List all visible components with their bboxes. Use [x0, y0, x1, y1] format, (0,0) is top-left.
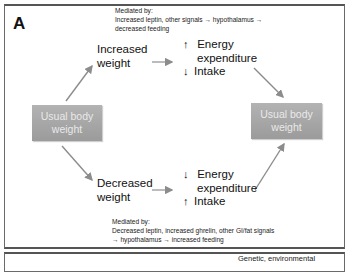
expenditure-label: expenditure	[183, 182, 257, 196]
arrow-usual-to-decreased	[62, 146, 92, 180]
intake-label: Intake	[194, 195, 225, 207]
panel-b-partial-text: Genetic, environmental	[238, 254, 315, 263]
decreased-weight-label: Decreased weight	[97, 177, 153, 204]
top-mediation-line: Increased leptin, other signals → hypoth…	[115, 15, 262, 24]
down-arrow-icon: ↓	[183, 65, 194, 79]
increased-weight-line: Increased	[97, 43, 148, 57]
down-arrow-icon: ↓	[183, 168, 194, 182]
top-mediation-line: decreased feeding	[115, 24, 262, 33]
bottom-mediation-line: → hypothalamus → increased feeding	[112, 235, 274, 244]
bottom-mediation-line: Decreased leptin, increased ghrelin, oth…	[112, 226, 274, 235]
up-arrow-icon: ↑	[183, 195, 194, 209]
box-line: weight	[260, 121, 313, 134]
bottom-mediation-text: Mediated by: Decreased leptin, increased…	[112, 217, 274, 244]
arrow-effects-to-usual-right-lower	[255, 144, 284, 190]
up-arrow-icon: ↑	[183, 38, 194, 52]
lower-effects: ↓ Energy expenditure ↑Intake	[183, 168, 257, 209]
energy-label: Energy	[197, 168, 233, 180]
intake-label: Intake	[194, 65, 225, 77]
box-line: weight	[41, 123, 94, 136]
arrow-usual-to-increased	[66, 66, 92, 101]
box-line: Usual body	[260, 108, 313, 121]
increased-weight-label: Increased weight	[97, 43, 148, 70]
energy-label: Energy	[197, 38, 233, 50]
upper-effects: ↑ Energy expenditure ↓Intake	[183, 38, 257, 79]
panel-label: A	[13, 14, 25, 34]
arrow-effects-to-usual-right	[254, 68, 283, 97]
usual-body-weight-box-right: Usual body weight	[251, 103, 322, 139]
top-mediation-text: Mediated by: Increased leptin, other sig…	[115, 6, 262, 33]
usual-body-weight-box-left: Usual body weight	[32, 105, 102, 141]
increased-weight-line: weight	[97, 57, 148, 71]
bottom-mediation-line: Mediated by:	[112, 217, 274, 226]
decreased-weight-line: Decreased	[97, 177, 153, 191]
box-line: Usual body	[41, 110, 94, 123]
expenditure-label: expenditure	[183, 52, 257, 66]
decreased-weight-line: weight	[97, 191, 153, 205]
top-mediation-line: Mediated by:	[115, 6, 262, 15]
